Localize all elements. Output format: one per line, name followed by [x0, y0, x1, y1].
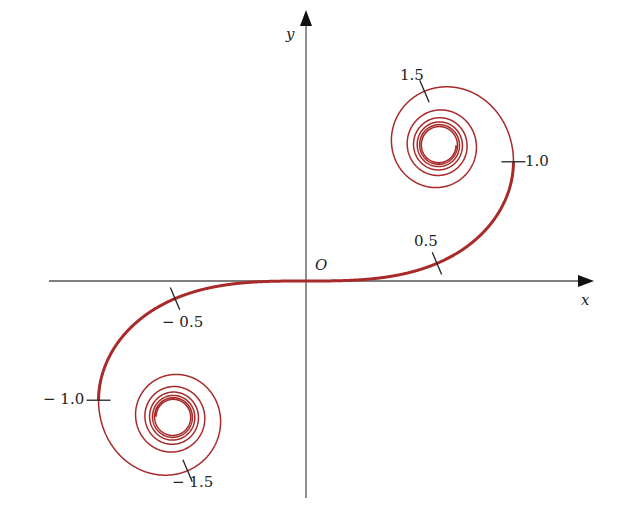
tick-label-neg-1-5: − 1.5	[172, 473, 213, 491]
x-axis-label: x	[581, 291, 590, 309]
tick-label-0-5: 0.5	[414, 232, 438, 250]
y-axis-arrow-icon	[300, 10, 312, 26]
tick-label-1-0: 1.0	[525, 152, 549, 170]
y-axis-label: y	[285, 25, 295, 43]
tick-label-neg-0-5: − 0.5	[162, 313, 203, 331]
tick-label-1-5: 1.5	[400, 66, 424, 84]
spiral-negative-coil	[99, 374, 221, 475]
tick-label-neg-1-0: − 1.0	[43, 390, 84, 408]
cornu-spiral-figure: x y O 0.5 1.0 1.5 − 0.5 − 1.0 − 1.5	[0, 0, 628, 519]
origin-label: O	[315, 256, 327, 274]
spiral-positive-coil	[391, 87, 513, 188]
x-axis-arrow-icon	[578, 275, 594, 287]
